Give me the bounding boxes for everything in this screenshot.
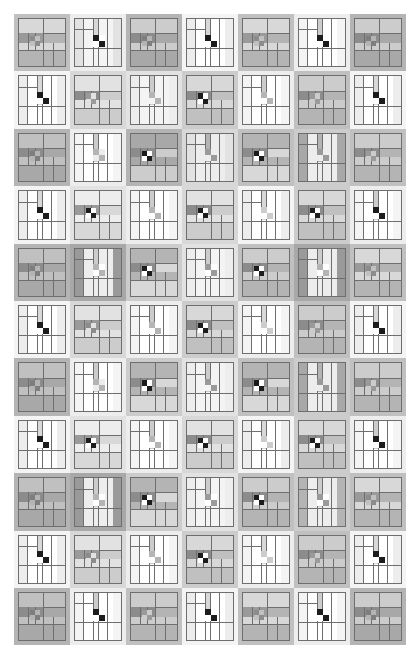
quilt-patch xyxy=(155,478,156,525)
quilt-patch xyxy=(379,19,380,66)
quilt-patch xyxy=(43,557,49,563)
quilt-patch xyxy=(83,593,84,640)
quilt-patch xyxy=(187,144,205,145)
quilt-patch xyxy=(147,271,152,276)
quilt-patch xyxy=(57,76,65,123)
quilt-patch xyxy=(267,92,273,98)
quilt-patch xyxy=(371,271,376,276)
quilt-block xyxy=(126,14,182,71)
quilt-patch xyxy=(84,550,85,567)
quilt-patch xyxy=(211,500,217,506)
quilt-patch xyxy=(75,593,83,640)
quilt-patch xyxy=(139,536,140,583)
quilt-patch xyxy=(198,99,203,104)
quilt-patch xyxy=(267,593,268,640)
quilt-patch xyxy=(195,19,196,66)
quilt-patch xyxy=(75,603,93,604)
quilt-patch xyxy=(243,306,251,353)
quilt-patch xyxy=(317,385,323,391)
quilt-patch xyxy=(91,93,96,98)
quilt-patch xyxy=(155,98,161,104)
quilt-patch xyxy=(169,536,177,583)
quilt-patch xyxy=(331,19,332,66)
quilt-patch xyxy=(187,249,195,296)
quilt-patch xyxy=(195,478,196,525)
quilt-patch xyxy=(211,35,217,41)
quilt-patch xyxy=(93,385,99,391)
quilt-patch xyxy=(267,363,268,410)
quilt-patch xyxy=(371,610,376,615)
quilt-block xyxy=(350,186,406,243)
quilt-patch xyxy=(317,155,323,161)
quilt-patch xyxy=(277,617,278,641)
quilt-patch xyxy=(165,387,166,411)
quilt-patch xyxy=(28,492,29,509)
quilt-patch xyxy=(307,134,308,181)
quilt-block xyxy=(14,14,70,71)
quilt-patch xyxy=(337,478,345,525)
quilt-patch xyxy=(43,478,44,525)
quilt-patch xyxy=(107,134,108,181)
quilt-patch xyxy=(84,205,85,222)
quilt-patch xyxy=(267,249,268,296)
quilt-patch xyxy=(299,622,345,623)
quilt-patch xyxy=(251,191,252,238)
quilt-patch xyxy=(355,202,373,203)
quilt-patch xyxy=(259,151,264,156)
quilt-patch xyxy=(315,328,320,333)
quilt-patch xyxy=(315,323,320,328)
quilt-patch xyxy=(35,36,40,41)
quilt-patch xyxy=(131,421,139,468)
quilt-patch xyxy=(35,500,40,505)
quilt-patch xyxy=(30,271,35,276)
quilt-patch xyxy=(331,363,332,410)
quilt-patch xyxy=(337,134,345,181)
quilt-patch xyxy=(379,557,385,563)
quilt-patch xyxy=(259,156,264,161)
quilt-patch xyxy=(355,450,401,451)
quilt-patch xyxy=(299,249,307,296)
quilt-patch xyxy=(211,191,212,238)
quilt-patch xyxy=(243,316,261,317)
quilt-patch xyxy=(251,421,252,468)
quilt-patch xyxy=(243,431,261,432)
quilt-patch xyxy=(75,144,93,145)
quilt-patch xyxy=(317,270,323,276)
quilt-block xyxy=(238,71,294,128)
quilt-patch xyxy=(195,593,196,640)
quilt-patch xyxy=(373,98,379,104)
quilt-patch xyxy=(252,148,253,165)
quilt-patch xyxy=(219,478,220,525)
quilt-block xyxy=(182,301,238,358)
quilt-patch xyxy=(198,213,203,218)
quilt-patch xyxy=(203,438,208,443)
quilt-patch xyxy=(267,436,273,442)
quilt-patch xyxy=(225,593,233,640)
quilt-patch xyxy=(203,443,208,448)
quilt-patch xyxy=(57,306,65,353)
quilt-block xyxy=(126,186,182,243)
quilt-patch xyxy=(203,553,208,558)
quilt-block xyxy=(182,71,238,128)
quilt-patch xyxy=(37,442,43,448)
quilt-patch xyxy=(211,494,217,500)
quilt-patch xyxy=(299,603,317,604)
quilt-patch xyxy=(393,421,401,468)
quilt-patch xyxy=(131,536,139,583)
quilt-patch xyxy=(363,421,364,468)
quilt-patch xyxy=(147,610,152,615)
quilt-patch xyxy=(147,500,152,505)
quilt-patch xyxy=(299,19,307,66)
quilt-block xyxy=(182,129,238,186)
quilt-patch xyxy=(142,500,147,505)
quilt-patch xyxy=(75,19,83,66)
quilt-patch xyxy=(393,306,401,353)
quilt-block xyxy=(14,588,70,645)
quilt-patch xyxy=(299,478,307,525)
quilt-patch xyxy=(277,502,278,526)
quilt-patch xyxy=(243,202,261,203)
quilt-patch xyxy=(83,134,84,181)
quilt-patch xyxy=(43,328,49,334)
quilt-patch xyxy=(57,191,65,238)
quilt-patch xyxy=(43,19,44,66)
